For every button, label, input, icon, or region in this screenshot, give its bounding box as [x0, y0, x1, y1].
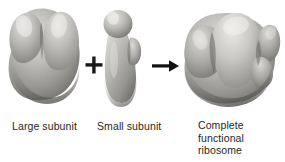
caption-small-subunit: Small subunit: [97, 120, 177, 133]
small-subunit-image: [92, 0, 150, 115]
complete-ribosome-image: [176, 0, 285, 115]
small-subunit-body-highlight: [110, 42, 118, 78]
small-ribosomal-subunit-blob: [92, 0, 150, 115]
large-ribosomal-subunit-blob: [0, 0, 92, 115]
caption-complete-ribosome: Complete functional ribosome: [198, 119, 278, 157]
ribosome-assembly-figure: Large subunit Small subunit Complete fun…: [0, 0, 285, 162]
complete-ribosome-blob: [176, 0, 285, 115]
large-subunit-image: [0, 0, 92, 115]
caption-large-subunit: Large subunit: [12, 120, 94, 133]
